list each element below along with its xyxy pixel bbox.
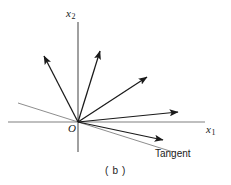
- tangent-label: Tangent: [155, 149, 191, 159]
- vectors-group: [44, 51, 178, 140]
- vector-cone-diagram: [0, 0, 231, 185]
- vector-4: [78, 112, 178, 122]
- x1-axis-label: x1: [206, 124, 215, 137]
- axes-group: [8, 22, 205, 152]
- x2-axis-label: x2: [66, 8, 75, 21]
- origin-label: O: [68, 123, 76, 134]
- vector-5: [78, 122, 163, 140]
- vector-1: [44, 56, 78, 122]
- x2-axis-label-subscript: 2: [71, 12, 76, 21]
- figure-caption: ( b ): [0, 166, 231, 176]
- vector-3: [78, 77, 147, 122]
- vector-2: [78, 51, 100, 122]
- figure-container: x2 x1 O Tangent ( b ): [0, 0, 231, 185]
- x1-axis-label-subscript: 1: [211, 128, 216, 137]
